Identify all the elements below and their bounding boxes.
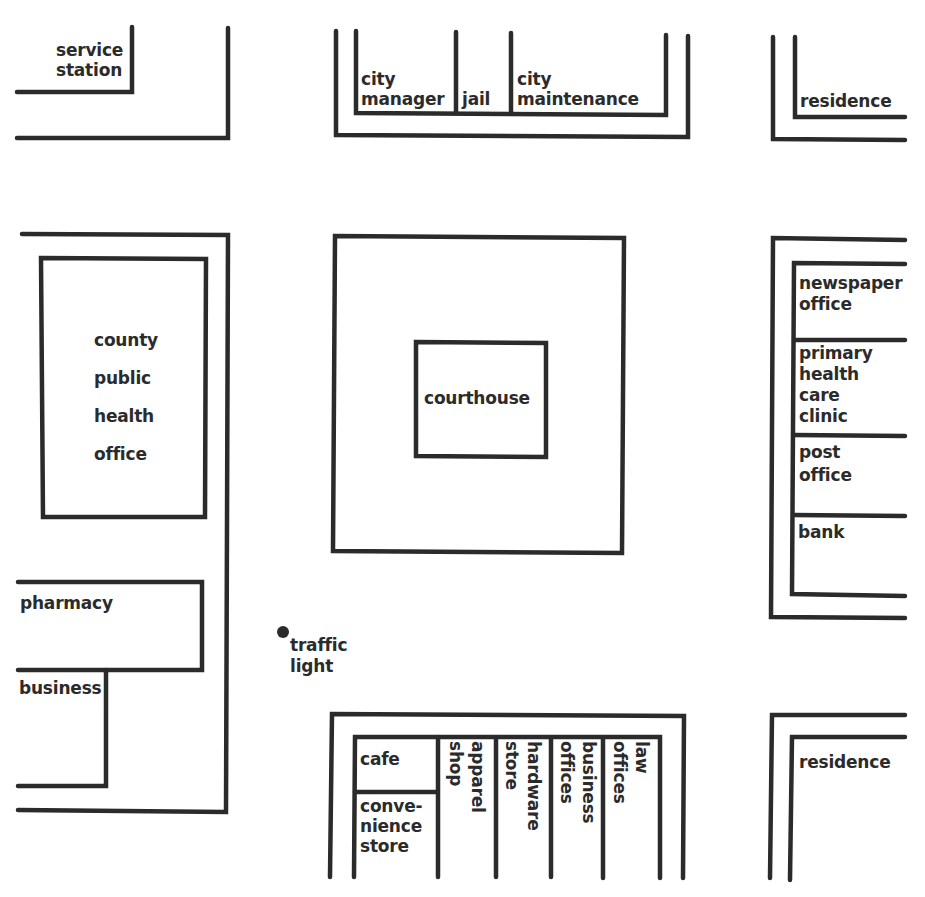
- label-law-offices: law offices: [609, 741, 653, 804]
- label-city-maintenance: city maintenance: [517, 69, 639, 109]
- label-convenience-store: conve- nience store: [360, 796, 422, 856]
- label-city-manager: city manager: [361, 69, 444, 109]
- label-residence-bottom: residence: [799, 752, 890, 772]
- label-county-public-health-office: county public health office: [94, 321, 158, 473]
- label-business: business: [19, 678, 102, 698]
- label-business-offices: business offices: [556, 741, 600, 824]
- label-primary-health-care-clinic: primary health care clinic: [799, 343, 873, 427]
- label-post-office: post office: [799, 441, 852, 487]
- label-traffic-light: traffic light: [290, 635, 347, 677]
- label-pharmacy: pharmacy: [20, 593, 113, 613]
- label-newspaper-office: newspaper office: [799, 273, 902, 315]
- label-jail: jail: [462, 89, 490, 109]
- top-right-block: [773, 37, 905, 140]
- label-bank: bank: [798, 522, 844, 542]
- label-courthouse: courthouse: [424, 388, 530, 408]
- label-apparel-shop: apparel shop: [445, 741, 489, 813]
- label-residence-top: residence: [800, 91, 891, 111]
- traffic-light-icon: [277, 626, 289, 638]
- label-service-station: service station: [56, 40, 123, 80]
- label-hardware-store: hardware store: [501, 741, 545, 831]
- bottom-right-block: [770, 715, 905, 880]
- label-cafe: cafe: [360, 749, 400, 769]
